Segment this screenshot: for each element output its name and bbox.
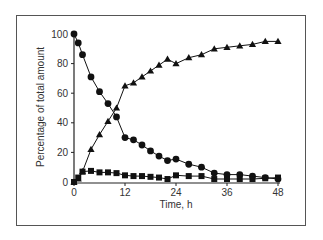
circle-marker (79, 51, 86, 58)
circle-marker (75, 39, 82, 46)
triangle-marker (104, 118, 111, 124)
square-marker (250, 176, 256, 182)
y-tick-label: 80 (57, 58, 69, 69)
circle-marker (185, 161, 192, 168)
square-marker (88, 168, 94, 174)
circle-marker (156, 153, 163, 160)
square-marker (275, 175, 281, 181)
square-marker (165, 176, 171, 182)
square-marker (105, 169, 111, 175)
square-marker (97, 169, 103, 175)
triangle-marker (172, 60, 179, 66)
square-marker (122, 172, 128, 178)
square-marker (148, 174, 154, 180)
circle-marker (173, 156, 180, 163)
circle-marker (113, 113, 120, 120)
axes: 020406080100012243648 (51, 29, 284, 199)
y-tick-label: 0 (62, 177, 68, 188)
circle-marker (198, 164, 205, 171)
x-tick-label: 12 (119, 187, 131, 198)
circle-marker (105, 100, 112, 107)
square-marker (186, 173, 192, 179)
circle-marker (71, 31, 78, 38)
circle-marker (130, 136, 137, 143)
y-tick-label: 60 (57, 88, 69, 99)
series-triangles (70, 38, 281, 185)
square-marker (114, 170, 120, 176)
square-marker (199, 173, 205, 179)
square-marker (80, 169, 86, 175)
triangle-marker (147, 67, 154, 73)
square-marker (237, 176, 243, 182)
x-tick-label: 36 (221, 187, 233, 198)
triangle-marker (87, 146, 94, 152)
square-marker (131, 173, 137, 179)
square-marker (224, 176, 230, 182)
circle-marker (147, 148, 154, 155)
triangle-marker (130, 79, 137, 85)
circle-marker (211, 170, 218, 177)
triangle-marker (96, 131, 103, 137)
series-circles (71, 31, 282, 183)
x-tick-label: 48 (272, 187, 284, 198)
circle-marker (139, 142, 146, 149)
x-tick-label: 24 (170, 187, 182, 198)
circle-marker (96, 88, 103, 95)
x-axis-label: Time, h (160, 199, 193, 210)
y-tick-label: 40 (57, 117, 69, 128)
square-marker (139, 173, 145, 179)
square-marker (211, 176, 217, 182)
y-axis-label: Percentage of total amount (35, 47, 46, 167)
y-tick-label: 100 (51, 29, 68, 40)
triangle-marker (198, 51, 205, 57)
square-marker (156, 175, 162, 181)
triangle-marker (155, 62, 162, 68)
triangle-marker (113, 104, 120, 110)
square-marker (173, 172, 179, 178)
circle-marker (164, 157, 171, 164)
line-chart: 020406080100012243648 Time, h Percentage… (0, 0, 323, 240)
triangle-marker (164, 56, 171, 62)
square-marker (262, 175, 268, 181)
square-marker (75, 175, 81, 181)
x-tick-label: 0 (71, 187, 77, 198)
circle-marker (88, 74, 95, 81)
triangle-marker (138, 73, 145, 79)
plot-series (70, 31, 281, 185)
y-tick-label: 20 (57, 147, 69, 158)
circle-marker (122, 134, 129, 141)
